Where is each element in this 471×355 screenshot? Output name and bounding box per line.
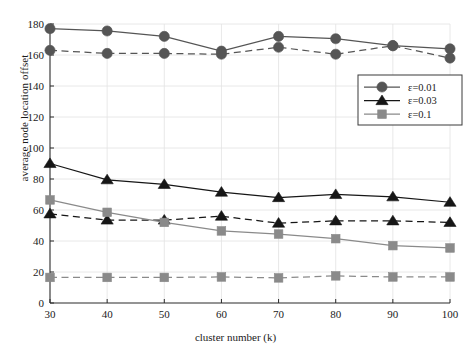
data-series bbox=[46, 272, 455, 283]
data-point-marker bbox=[273, 31, 283, 41]
data-point-marker bbox=[103, 208, 112, 217]
data-point-marker bbox=[160, 218, 169, 227]
y-tick-label: 160 bbox=[28, 49, 45, 61]
legend-label: ε=0.01 bbox=[408, 82, 437, 93]
x-tick-label: 100 bbox=[442, 308, 459, 320]
data-point-marker bbox=[160, 273, 169, 282]
data-point-marker bbox=[330, 215, 342, 225]
legend: ε=0.01ε=0.03ε=0.1 bbox=[358, 75, 462, 125]
y-tick-label: 40 bbox=[33, 235, 45, 247]
data-point-marker bbox=[331, 49, 341, 59]
data-point-marker bbox=[159, 48, 169, 58]
x-tick-label: 40 bbox=[102, 308, 114, 320]
data-point-marker bbox=[45, 24, 55, 34]
data-point-marker bbox=[44, 158, 56, 168]
data-point-marker bbox=[46, 273, 55, 282]
data-point-marker bbox=[444, 217, 456, 227]
data-point-marker bbox=[389, 241, 398, 250]
legend-marker bbox=[377, 82, 387, 92]
data-point-marker bbox=[331, 272, 340, 281]
y-tick-label: 20 bbox=[33, 266, 45, 278]
y-tick-label: 60 bbox=[33, 204, 45, 216]
y-tick-label: 180 bbox=[28, 18, 45, 30]
y-tick-label: 100 bbox=[28, 142, 45, 154]
y-tick-label: 140 bbox=[28, 80, 45, 92]
data-point-marker bbox=[274, 230, 283, 239]
data-point-marker bbox=[45, 45, 55, 55]
data-point-marker bbox=[103, 273, 112, 282]
data-point-marker bbox=[273, 42, 283, 52]
data-point-marker bbox=[274, 274, 283, 283]
data-point-marker bbox=[331, 34, 341, 44]
legend-label: ε=0.1 bbox=[408, 109, 431, 120]
data-point-marker bbox=[46, 196, 55, 205]
x-tick-label: 60 bbox=[216, 308, 228, 320]
plot-canvas: 0204060801001201401601803040506070809010… bbox=[0, 0, 471, 355]
x-tick-label: 70 bbox=[273, 308, 285, 320]
data-point-marker bbox=[331, 234, 340, 243]
data-point-marker bbox=[387, 215, 399, 225]
data-point-marker bbox=[159, 31, 169, 41]
data-point-marker bbox=[217, 227, 226, 236]
data-series bbox=[44, 158, 456, 206]
data-point-marker bbox=[215, 211, 227, 221]
grid-lines bbox=[50, 24, 450, 303]
data-point-marker bbox=[388, 41, 398, 51]
x-tick-label: 30 bbox=[45, 308, 57, 320]
data-point-marker bbox=[389, 273, 398, 282]
data-point-marker bbox=[330, 189, 342, 199]
y-tick-label: 120 bbox=[28, 111, 45, 123]
axes bbox=[50, 24, 450, 303]
x-tick-label: 80 bbox=[330, 308, 342, 320]
data-point-marker bbox=[446, 244, 455, 253]
legend-marker bbox=[378, 110, 387, 119]
data-point-marker bbox=[445, 53, 455, 63]
data-point-marker bbox=[217, 273, 226, 282]
data-point-marker bbox=[446, 273, 455, 282]
data-point-marker bbox=[102, 26, 112, 36]
data-point-marker bbox=[445, 44, 455, 54]
x-tick-label: 50 bbox=[159, 308, 171, 320]
legend-label: ε=0.03 bbox=[408, 95, 437, 106]
y-tick-label: 80 bbox=[33, 173, 45, 185]
chart-figure: average node location offset cluster num… bbox=[0, 0, 471, 355]
data-point-marker bbox=[216, 49, 226, 59]
x-tick-label: 90 bbox=[387, 308, 399, 320]
data-point-marker bbox=[102, 48, 112, 58]
